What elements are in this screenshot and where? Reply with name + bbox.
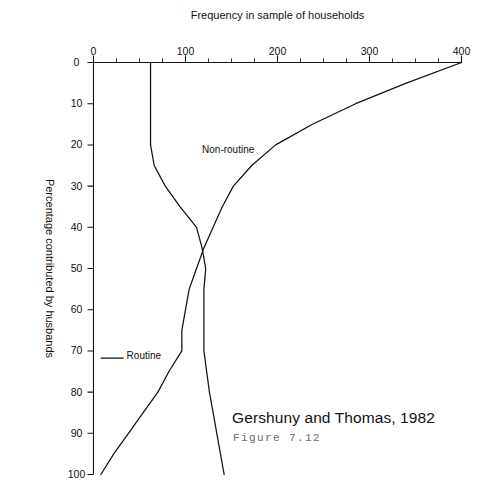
y-axis-tick-labels: 0100200300400 [90, 45, 470, 57]
series-label-non-routine: Non-routine [202, 144, 255, 155]
x-tick-label: 60 [70, 303, 82, 315]
x-axis-tick-labels: 0102030405060708090100 [67, 56, 85, 480]
series-labels-group: Non-routineRoutine [100, 144, 254, 361]
x-tick-label: 30 [70, 179, 82, 191]
x-axis-label: Percentage contributed by husbands [43, 178, 55, 358]
y-tick-label: 400 [452, 45, 470, 57]
figure-title: Gershuny and Thomas, 1982 [232, 409, 435, 427]
y-axis-label: Frequency in sample of households [190, 8, 364, 20]
y-tick-label: 300 [360, 45, 378, 57]
x-tick-label: 80 [70, 385, 82, 397]
x-tick-label: 10 [70, 97, 82, 109]
x-axis-ticks [87, 62, 93, 474]
x-tick-label: 100 [67, 468, 85, 480]
series-label-routine: Routine [126, 350, 161, 361]
x-tick-label: 70 [70, 344, 82, 356]
y-tick-label: 200 [268, 45, 286, 57]
x-tick-label: 0 [73, 56, 79, 68]
series-line-routine [150, 62, 224, 474]
y-tick-label: 0 [90, 45, 96, 57]
x-tick-label: 50 [70, 262, 82, 274]
y-tick-label: 100 [176, 45, 194, 57]
x-tick-label: 20 [70, 138, 82, 150]
x-tick-label: 40 [70, 220, 82, 232]
x-tick-label: 90 [70, 426, 82, 438]
figure-caption: Figure 7.12 [233, 432, 321, 444]
